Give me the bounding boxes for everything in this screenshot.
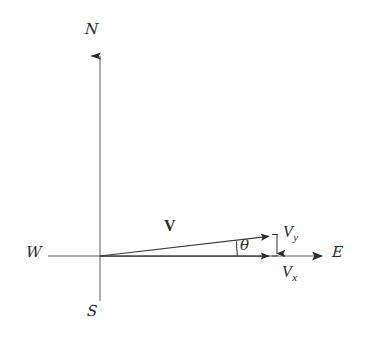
diagram-canvas	[0, 0, 375, 352]
component-label-vx: Vx	[282, 264, 297, 283]
axis-label-west: W	[25, 245, 42, 260]
angle-label-theta: θ	[240, 238, 249, 253]
axis-label-east: E	[331, 245, 344, 260]
axis-label-south: S	[86, 304, 98, 319]
axis-label-north: N	[84, 22, 99, 37]
component-label-vx-subscript: x	[292, 271, 297, 283]
component-label-vy: Vy	[283, 224, 298, 243]
theta-arc	[237, 241, 238, 256]
vector-label-v: V	[164, 218, 176, 234]
vector-diagram-figure: N S W E V θ Vy Vx	[0, 0, 375, 352]
component-label-vy-base: V	[283, 223, 293, 240]
component-label-vx-base: V	[282, 263, 292, 280]
component-label-vy-subscript: y	[293, 231, 298, 243]
